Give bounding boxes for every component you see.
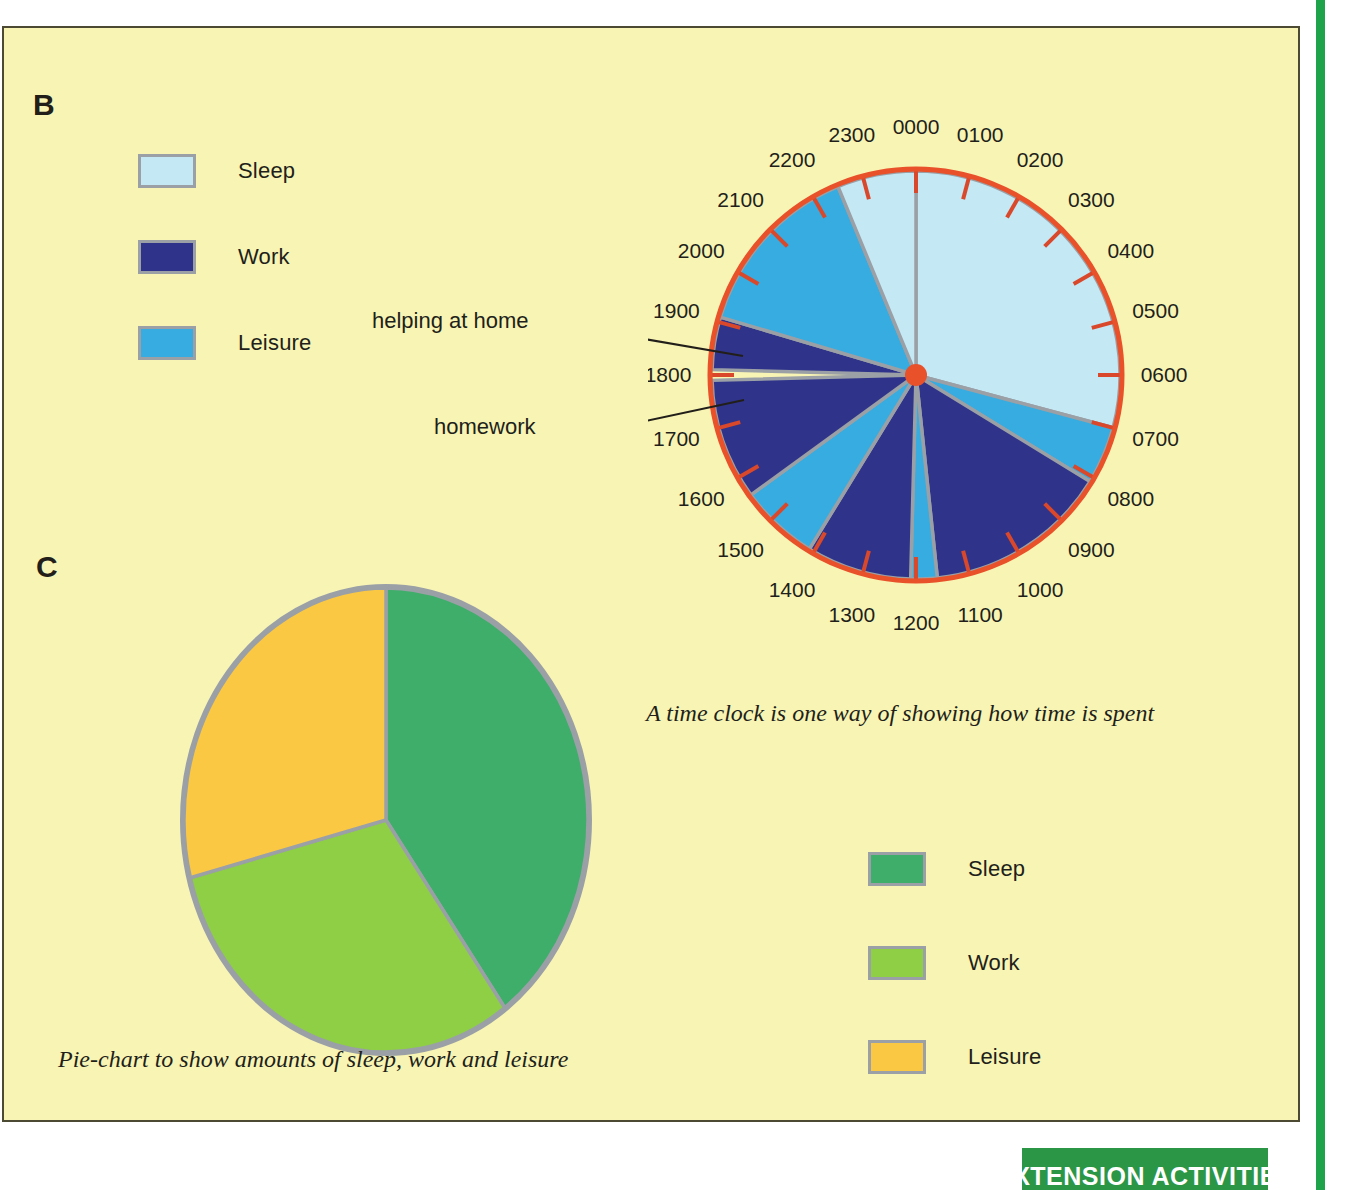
legend-label-sleep: Sleep [238,158,295,184]
clock-hour-label-0000: 0000 [893,115,940,138]
clock-hour-label-1400: 1400 [769,578,816,601]
clock-hour-label-0300: 0300 [1068,188,1115,211]
right-green-rule [1316,0,1325,1190]
clock-hour-label-2100: 2100 [717,188,764,211]
pie-legend-label-work: Work [968,950,1020,976]
clock-hour-label-2000: 2000 [678,239,725,262]
legend-item-work: Work [138,234,312,280]
clock-caption: A time clock is one way of showing how t… [646,700,1154,727]
pie-chart-svg [140,582,640,1062]
pie-legend-item-work: Work [868,940,1042,986]
time-clock-figure: 0000010002000300040005000600070008000900… [648,88,1208,668]
clock-hour-label-1100: 1100 [958,603,1003,626]
clock-hour-label-2200: 2200 [769,148,816,171]
pie-legend-swatch-work [868,946,926,980]
clock-hour-label-1000: 1000 [1017,578,1064,601]
legend-swatch-work [138,240,196,274]
legend-swatch-sleep [138,154,196,188]
clock-hour-label-1800: 1800 [648,363,691,386]
pie-slices [184,588,588,1052]
clock-hour-label-1900: 1900 [653,299,700,322]
clock-hour-label-0500: 0500 [1132,299,1179,322]
pie-legend: Sleep Work Leisure [868,846,1042,1128]
extension-activities-tab[interactable]: EXTENSION ACTIVITIES [1022,1148,1268,1190]
clock-hour-label-0100: 0100 [957,123,1004,146]
pie-legend-item-leisure: Leisure [868,1034,1042,1080]
pie-caption: Pie-chart to show amounts of sleep, work… [58,1046,568,1073]
pie-legend-label-leisure: Leisure [968,1044,1042,1070]
clock-hour-label-1300: 1300 [828,603,875,626]
legend-label-work: Work [238,244,290,270]
callout-homework: homework [434,414,535,440]
clock-hour-label-1600: 1600 [678,487,725,510]
clock-hour-label-2300: 2300 [828,123,875,146]
section-label-c: C [36,550,58,584]
clock-hour-label-1200: 1200 [893,611,940,634]
pie-legend-item-sleep: Sleep [868,846,1042,892]
clock-hour-label-1700: 1700 [653,427,700,450]
clock-hour-label-0400: 0400 [1107,239,1154,262]
clock-hour-label-0200: 0200 [1017,148,1064,171]
pie-legend-swatch-leisure [868,1040,926,1074]
clock-hub [905,364,927,386]
clock-hour-label-0900: 0900 [1068,538,1115,561]
pie-legend-swatch-sleep [868,852,926,886]
legend-item-leisure: Leisure [138,320,312,366]
pie-chart-figure [140,582,640,1062]
clock-hour-label-0700: 0700 [1132,427,1179,450]
page-root: B C Sleep Work Leisure helping at home h… [0,0,1360,1190]
legend-item-sleep: Sleep [138,148,312,194]
extension-activities-label: EXTENSION ACTIVITIES [1022,1148,1268,1190]
clock-legend: Sleep Work Leisure [138,148,312,406]
pie-legend-label-sleep: Sleep [968,856,1025,882]
clock-hour-label-1500: 1500 [717,538,764,561]
time-clock-svg: 0000010002000300040005000600070008000900… [648,88,1208,668]
legend-label-leisure: Leisure [238,330,312,356]
clock-hour-label-0600: 0600 [1141,363,1188,386]
section-label-b: B [33,88,55,122]
clock-hour-label-0800: 0800 [1107,487,1154,510]
callout-helping-at-home: helping at home [372,308,529,334]
legend-swatch-leisure [138,326,196,360]
